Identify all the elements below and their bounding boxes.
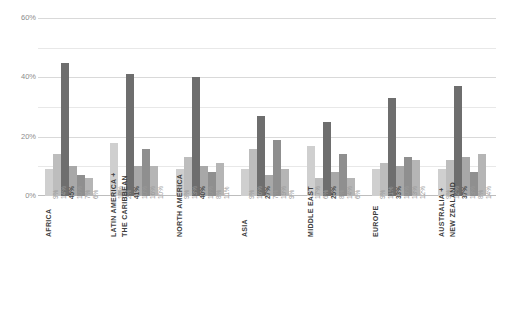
category-name: ASIA	[241, 219, 248, 237]
category-label-group: 9%14%45%10%7%6%AFRICA	[38, 197, 103, 316]
bar-value-label: 33%	[395, 186, 403, 199]
bar	[323, 122, 331, 196]
bar-value-label: 9%	[379, 190, 387, 199]
bar	[61, 63, 69, 197]
bar-value-label: 8%	[477, 190, 485, 199]
category-label-group: 9%12%37%13%8%14%AUSTRALIA +NEW ZEALAND	[431, 197, 496, 316]
bar-value-label: 10%	[207, 186, 215, 199]
bar	[388, 98, 396, 196]
bar-value-label: 13%	[411, 186, 419, 199]
bar-group	[38, 18, 103, 196]
category-name: MIDDLE EAST	[307, 186, 314, 237]
bar-chart: 0%20%40%60% 9%14%45%10%7%6%AFRICA18%2%41…	[0, 0, 514, 316]
bar-group	[431, 18, 496, 196]
bar-group	[234, 18, 299, 196]
bar-value-label: 13%	[191, 186, 199, 199]
bar-value-label: 8%	[338, 190, 346, 199]
bar-value-label: 10%	[76, 186, 84, 199]
category-label-group: 18%2%41%10%16%10%LATIN AMERICA +THE CARI…	[103, 197, 168, 316]
bar-value-label: 11%	[223, 186, 231, 199]
bar	[257, 116, 265, 196]
category-label-group: 17%6%25%8%14%6%MIDDLE EAST	[300, 197, 365, 316]
y-axis-tick-label: 40%	[2, 72, 36, 81]
bar-groups	[38, 18, 496, 196]
y-axis-tick-label: 60%	[2, 13, 36, 22]
category-label-group: 9%13%40%10%8%11%NORTH AMERICA	[169, 197, 234, 316]
bar-value-label: 7%	[84, 190, 92, 199]
y-axis-tick-label: 0%	[2, 191, 36, 200]
bar-value-label: 11%	[387, 186, 395, 199]
category-label-group: 9%11%33%10%13%12%EUROPE	[365, 197, 430, 316]
bar-value-label: 12%	[419, 186, 427, 199]
bar	[454, 86, 462, 196]
y-axis-tick-label: 20%	[2, 132, 36, 141]
bar-value-label: 9%	[288, 190, 296, 199]
bar-value-label: 14%	[346, 186, 354, 199]
bar-value-label: 45%	[68, 186, 76, 199]
category-name: LATIN AMERICA +	[110, 172, 117, 237]
category-name: NORTH AMERICA	[176, 174, 183, 237]
category-name: EUROPE	[372, 206, 379, 237]
bar-group	[300, 18, 365, 196]
bar-group	[365, 18, 430, 196]
bar-value-label: 10%	[157, 186, 165, 199]
bar-value-label: 6%	[322, 190, 330, 199]
bar-value-label: 17%	[314, 186, 322, 199]
bar-value-label: 37%	[461, 186, 469, 199]
bar-group	[169, 18, 234, 196]
bar	[192, 77, 200, 196]
category-name: AFRICA	[45, 209, 52, 237]
category-label-group: 9%16%27%7%19%9%ASIA	[234, 197, 299, 316]
bar-value-label: 40%	[199, 186, 207, 199]
category-name: THE CARIBBEAN	[121, 175, 128, 237]
bar-value-label: 6%	[92, 190, 100, 199]
category-name: AUSTRALIA +	[438, 187, 445, 237]
category-labels: 9%14%45%10%7%6%AFRICA18%2%41%10%16%10%LA…	[38, 197, 496, 316]
bar-value-label: 13%	[469, 186, 477, 199]
bar-value-label: 25%	[330, 186, 338, 199]
bar-value-label: 9%	[52, 190, 60, 199]
bar-value-label: 8%	[215, 190, 223, 199]
bar-value-label: 14%	[485, 186, 493, 199]
bar-group	[103, 18, 168, 196]
bar-value-label: 14%	[60, 186, 68, 199]
category-name: NEW ZEALAND	[449, 182, 456, 237]
bar-value-label: 6%	[354, 190, 362, 199]
bar-value-label: 9%	[183, 190, 191, 199]
bar-value-label: 10%	[403, 186, 411, 199]
